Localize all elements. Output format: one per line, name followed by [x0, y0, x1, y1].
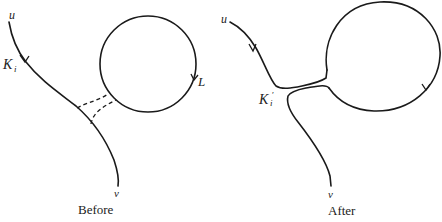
caption-after: After [328, 203, 356, 218]
knot-strand-after-upper [230, 22, 327, 88]
knot-strand-before [9, 22, 118, 186]
label-u-after: u [221, 12, 227, 26]
knot-strand-after-lower [287, 86, 331, 186]
label-v-after: v [328, 188, 333, 200]
label-loop-L: L [197, 74, 205, 89]
loop-circle [100, 16, 196, 112]
band-dashed-lower [91, 100, 116, 124]
label-u-before: u [9, 8, 15, 22]
before-panel: u K i L v Before [2, 8, 205, 217]
band-dashed-upper [77, 94, 108, 108]
label-knot-before: K [2, 57, 13, 72]
label-knot-subscript-before: i [14, 64, 17, 74]
label-v-before: v [114, 187, 119, 199]
label-knot-after: K [258, 92, 269, 107]
strand-arrow-icon [20, 55, 29, 62]
label-knot-prime-after: ′ [272, 90, 274, 100]
strand-arrow-icon-after [249, 44, 256, 51]
knot-band-sum-diagram: u K i L v Before u K i ′ v After [0, 0, 442, 222]
after-panel: u K i ′ v After [221, 2, 440, 218]
loop-after [326, 2, 440, 111]
caption-before: Before [78, 202, 114, 217]
